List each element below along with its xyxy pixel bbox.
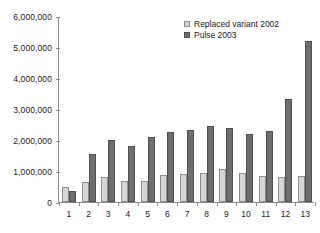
x-axis-tick-label: 6 — [165, 209, 170, 219]
y-axis-tick: 2,000,000 — [13, 136, 59, 146]
legend-item-label: Replaced variant 2002 — [194, 19, 279, 29]
bar-pulse-2003 — [89, 154, 96, 202]
bar-chart: 01,000,0002,000,0003,000,0004,000,0005,0… — [0, 0, 320, 233]
y-axis-tick: 1,000,000 — [13, 167, 59, 177]
bar-group — [217, 17, 237, 202]
x-axis-tick-mark — [256, 202, 257, 206]
plot-area: 01,000,0002,000,0003,000,0004,000,0005,0… — [58, 17, 314, 203]
dark-swatch-icon — [184, 32, 190, 38]
bar-replaced-variant-2002 — [160, 175, 167, 202]
y-axis-tick-label: 4,000,000 — [13, 74, 56, 84]
x-axis-tick-label: 7 — [185, 209, 190, 219]
x-axis-tick-label: 5 — [145, 209, 150, 219]
bar-replaced-variant-2002 — [62, 187, 69, 202]
legend-item[interactable]: Pulse 2003 — [184, 29, 279, 40]
x-axis-tick-label: 2 — [86, 209, 91, 219]
bar-group — [157, 17, 177, 202]
x-axis-tick-mark — [177, 202, 178, 206]
bar-pulse-2003 — [305, 41, 312, 202]
bar-pulse-2003 — [285, 99, 292, 202]
x-axis-tick-mark — [138, 202, 139, 206]
bar-replaced-variant-2002 — [82, 182, 89, 202]
x-axis-tick-mark — [295, 202, 296, 206]
x-axis-tick-mark — [98, 202, 99, 206]
y-axis-tick-label: 2,000,000 — [13, 136, 56, 146]
bar-group — [138, 17, 158, 202]
bar-pulse-2003 — [108, 140, 115, 202]
x-axis-tick-mark — [118, 202, 119, 206]
x-axis-tick-label: 13 — [300, 209, 309, 219]
x-axis-tick-mark — [197, 202, 198, 206]
x-axis-tick-label: 10 — [241, 209, 250, 219]
bar-group — [276, 17, 296, 202]
y-axis-tick: 0 — [47, 198, 59, 208]
legend-item-label: Pulse 2003 — [194, 30, 237, 40]
x-axis-tick-mark — [217, 202, 218, 206]
y-axis-tick: 3,000,000 — [13, 105, 59, 115]
bar-pulse-2003 — [69, 191, 76, 202]
bar-pulse-2003 — [246, 134, 253, 202]
bar-pulse-2003 — [128, 146, 135, 202]
bar-pulse-2003 — [148, 137, 155, 202]
x-axis-tick-label: 4 — [126, 209, 131, 219]
x-axis-tick-label: 9 — [224, 209, 229, 219]
x-axis-tick-mark — [59, 202, 60, 206]
x-axis-tick-mark — [157, 202, 158, 206]
bar-pulse-2003 — [226, 128, 233, 202]
x-axis-tick-label: 3 — [106, 209, 111, 219]
x-axis-tick-label: 8 — [204, 209, 209, 219]
bar-group — [236, 17, 256, 202]
x-axis-tick-mark — [79, 202, 80, 206]
bar-pulse-2003 — [207, 126, 214, 202]
y-axis-tick-label: 3,000,000 — [13, 105, 56, 115]
y-axis-tick: 6,000,000 — [13, 12, 59, 22]
bar-group — [59, 17, 79, 202]
bar-replaced-variant-2002 — [298, 176, 305, 202]
bar-replaced-variant-2002 — [278, 177, 285, 202]
bar-replaced-variant-2002 — [200, 173, 207, 202]
bar-replaced-variant-2002 — [219, 169, 226, 202]
x-axis-tick-label: 11 — [261, 209, 270, 219]
x-axis-tick-label: 1 — [66, 209, 71, 219]
x-axis-tick-label: 12 — [281, 209, 290, 219]
y-axis-tick-label: 1,000,000 — [13, 167, 56, 177]
bar-pulse-2003 — [167, 132, 174, 202]
bar-group — [295, 17, 315, 202]
bar-pulse-2003 — [187, 130, 194, 202]
y-axis-tick: 4,000,000 — [13, 74, 59, 84]
bar-replaced-variant-2002 — [239, 173, 246, 202]
bar-replaced-variant-2002 — [121, 181, 128, 202]
bar-group — [256, 17, 276, 202]
legend-item[interactable]: Replaced variant 2002 — [184, 18, 279, 29]
bar-group — [197, 17, 217, 202]
x-axis-tick-mark — [315, 202, 316, 206]
bar-pulse-2003 — [266, 131, 273, 202]
chart-legend: Replaced variant 2002Pulse 2003 — [184, 18, 279, 40]
bar-replaced-variant-2002 — [141, 181, 148, 202]
x-axis-tick-mark — [236, 202, 237, 206]
y-axis-tick-label: 6,000,000 — [13, 12, 56, 22]
bar-group — [118, 17, 138, 202]
y-axis-tick-label: 5,000,000 — [13, 43, 56, 53]
x-axis-tick-mark — [276, 202, 277, 206]
bar-replaced-variant-2002 — [180, 174, 187, 202]
bar-group — [98, 17, 118, 202]
y-axis-tick: 5,000,000 — [13, 43, 59, 53]
bar-group — [79, 17, 99, 202]
bar-replaced-variant-2002 — [259, 176, 266, 202]
light-swatch-icon — [184, 21, 190, 27]
bar-group — [177, 17, 197, 202]
bar-replaced-variant-2002 — [101, 177, 108, 202]
y-axis-tick-label: 0 — [47, 198, 56, 208]
